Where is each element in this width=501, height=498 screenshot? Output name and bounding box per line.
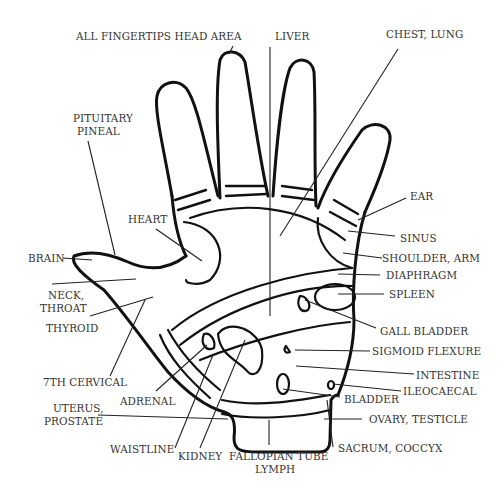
label-throat: THROAT bbox=[40, 302, 87, 314]
label-pituitary: PITUITARY bbox=[73, 112, 133, 124]
label-brain: BRAIN bbox=[28, 252, 65, 264]
label-pineal: PINEAL bbox=[77, 125, 120, 137]
label-neck: NECK, bbox=[48, 289, 84, 301]
label-waistline: WAISTLINE bbox=[110, 443, 174, 455]
label-sinus: SINUS bbox=[400, 232, 437, 244]
hand-reflexology-diagram: ALL FINGERTIPS HEAD AREA LIVER CHEST, LU… bbox=[0, 0, 501, 498]
label-chest-lung: CHEST, LUNG bbox=[386, 28, 463, 40]
labels: ALL FINGERTIPS HEAD AREA LIVER CHEST, LU… bbox=[28, 28, 481, 475]
label-prostate: PROSTATE bbox=[44, 415, 103, 427]
label-uterus: UTERUS, bbox=[53, 402, 104, 414]
palm-structures bbox=[160, 208, 355, 418]
label-sacrum-coccyx: SACRUM, COCCYX bbox=[338, 442, 443, 454]
label-adrenal: ADRENAL bbox=[119, 395, 175, 407]
label-ileocaecal: ILEOCAECAL bbox=[403, 385, 477, 397]
label-ovary-testicle: OVARY, TESTICLE bbox=[369, 413, 468, 425]
label-thyroid: THYROID bbox=[46, 322, 98, 334]
label-kidney: KIDNEY bbox=[178, 450, 222, 462]
label-fallopian-tube: FALLOPIAN TUBE bbox=[229, 450, 328, 462]
label-ear: EAR bbox=[410, 190, 434, 202]
label-sigmoid-flexure: SIGMOID FLEXURE bbox=[372, 345, 481, 357]
label-intestine: INTESTINE bbox=[416, 369, 479, 381]
label-heart: HEART bbox=[128, 213, 167, 225]
label-lymph: LYMPH bbox=[255, 463, 295, 475]
label-diaphragm: DIAPHRAGM bbox=[386, 269, 457, 281]
label-bladder: BLADDER bbox=[344, 393, 400, 405]
label-liver: LIVER bbox=[275, 30, 310, 42]
label-gall-bladder: GALL BLADDER bbox=[380, 325, 469, 337]
label-spleen: SPLEEN bbox=[389, 288, 435, 300]
label-shoulder-arm: SHOULDER, ARM bbox=[382, 252, 480, 264]
label-all-fingertips: ALL FINGERTIPS HEAD AREA bbox=[75, 30, 242, 42]
label-7th-cervical: 7TH CERVICAL bbox=[43, 376, 127, 388]
